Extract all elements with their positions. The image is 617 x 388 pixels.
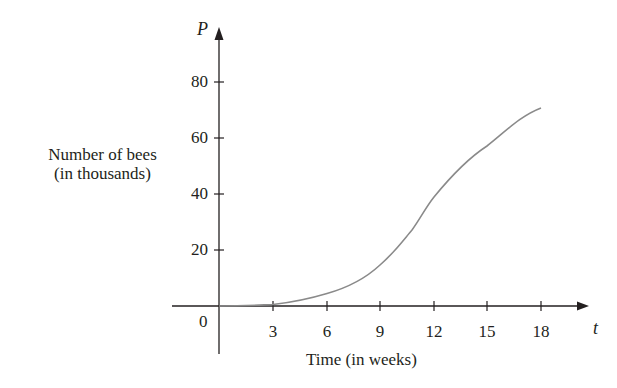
x-tick-label-6: 6 <box>312 322 342 342</box>
y-tick-label-60: 60 <box>168 128 208 148</box>
chart-plot-area <box>0 0 617 388</box>
x-tick-label-18: 18 <box>526 322 556 342</box>
x-axis-arrow-icon <box>577 302 589 311</box>
x-tick-label-12: 12 <box>419 322 449 342</box>
y-axis-label-line1: Number of bees <box>20 145 185 164</box>
y-axis-label: Number of bees (in thousands) <box>20 145 185 183</box>
x-axis-variable: t <box>593 319 598 337</box>
y-axis-arrow-icon <box>215 27 224 40</box>
population-curve <box>219 108 541 306</box>
y-axis-variable: P <box>197 20 208 38</box>
x-tick-label-9: 9 <box>365 322 395 342</box>
x-tick-label-3: 3 <box>258 322 288 342</box>
x-axis-label: Time (in weeks) <box>306 351 417 369</box>
x-tick-label-15: 15 <box>472 322 502 342</box>
origin-label: 0 <box>199 313 208 331</box>
y-tick-label-80: 80 <box>168 72 208 92</box>
y-tick-label-40: 40 <box>168 184 208 204</box>
y-axis-label-line2: (in thousands) <box>20 164 185 183</box>
y-tick-label-20: 20 <box>168 240 208 260</box>
